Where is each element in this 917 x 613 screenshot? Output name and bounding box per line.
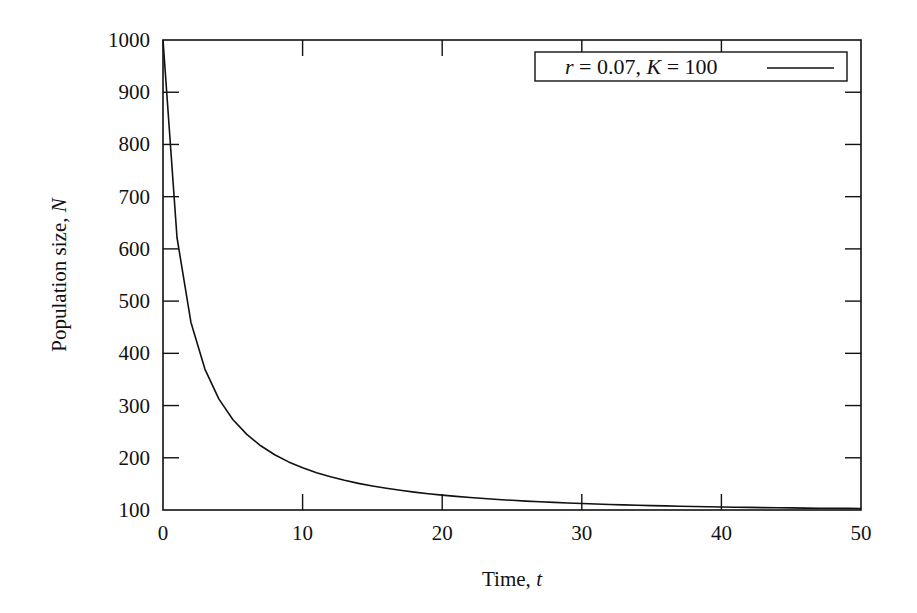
x-tick-label: 50 <box>851 521 872 545</box>
y-tick-label: 300 <box>119 394 151 418</box>
tick-labels: 0102030405010020030040050060070080090010… <box>108 28 872 545</box>
x-tick-label: 30 <box>571 521 592 545</box>
y-tick-label: 1000 <box>108 28 150 52</box>
y-tick-label: 800 <box>119 132 151 156</box>
y-tick-label: 500 <box>119 289 151 313</box>
y-axis-title: Population size, N <box>47 197 71 351</box>
axis-ticks <box>163 40 861 510</box>
plot-frame <box>163 40 861 510</box>
x-tick-label: 20 <box>432 521 453 545</box>
x-tick-label: 40 <box>711 521 732 545</box>
y-tick-label: 200 <box>119 446 151 470</box>
x-tick-label: 10 <box>292 521 313 545</box>
legend-label: r = 0.07, K = 100 <box>565 54 718 79</box>
legend: r = 0.07, K = 100 <box>535 52 847 81</box>
x-axis-title: Time, t <box>482 567 543 591</box>
y-tick-label: 900 <box>119 80 151 104</box>
y-tick-label: 600 <box>119 237 151 261</box>
y-tick-label: 700 <box>119 185 151 209</box>
y-tick-label: 400 <box>119 341 151 365</box>
line-chart: 0102030405010020030040050060070080090010… <box>0 0 917 613</box>
x-tick-label: 0 <box>158 521 169 545</box>
population-curve <box>163 40 861 509</box>
y-tick-label: 100 <box>119 498 151 522</box>
